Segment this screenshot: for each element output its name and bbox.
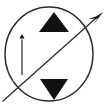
diagram-canvas: Circle with opposing triangles and direc… [0, 0, 108, 109]
diagram-svg [0, 0, 108, 109]
